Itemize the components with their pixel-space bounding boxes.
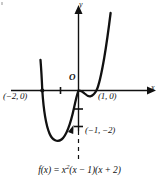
equation-caption: f(x) = x2(x − 1)(x + 2) [0,165,159,175]
point-marker-left-root [40,88,44,92]
point-label-left-root: (−2, 0) [3,92,27,101]
equation-lhs: f(x) = x [38,165,66,175]
function-curve [41,13,111,141]
x-axis-label: x [151,84,154,92]
point-label-minimum: (−1, −2) [85,126,115,135]
y-axis-label: y [79,1,82,9]
equation-rhs: (x − 1)(x + 2) [69,165,121,175]
figure-container: O (−2, 0) (1, 0) (−1, −2) x y f(x) = x2(… [0,0,159,182]
origin-label: O [69,73,75,82]
point-label-right-root: (1, 0) [98,92,116,101]
